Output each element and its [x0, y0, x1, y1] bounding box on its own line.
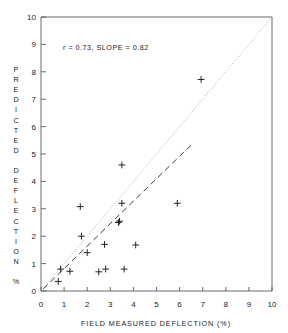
- chart-canvas: 012345678910 012345678910 r = 0.73, SLOP…: [0, 0, 288, 333]
- y-axis-title-char: T: [14, 126, 19, 135]
- data-point: [101, 241, 108, 248]
- y-tick-label-1: 1: [32, 260, 37, 269]
- y-axis-title-char: I: [15, 237, 17, 246]
- x-tick-label-5: 5: [154, 300, 159, 309]
- data-point-markers: [55, 76, 205, 285]
- data-point: [116, 218, 123, 225]
- x-tick-label-10: 10: [268, 300, 277, 309]
- data-point: [174, 200, 181, 207]
- x-tick-label-0: 0: [39, 300, 44, 309]
- plot-frame: [41, 17, 272, 291]
- y-tick-label-4: 4: [32, 177, 37, 186]
- y-axis-title-char: T: [14, 227, 19, 236]
- y-tick-label-7: 7: [32, 95, 37, 104]
- y-tick-label-10: 10: [27, 13, 36, 22]
- x-tick-label-8: 8: [224, 300, 229, 309]
- y-axis-title-char: %: [13, 277, 20, 286]
- y-axis-title: PREDICTEDDEFLECTION%: [13, 65, 20, 286]
- y-tick-label-0: 0: [32, 287, 37, 296]
- y-tick-label-9: 9: [32, 40, 37, 49]
- y-axis-title-char: I: [15, 105, 17, 114]
- data-point: [198, 76, 205, 83]
- data-point: [77, 203, 84, 210]
- y-axis-title-char: P: [14, 65, 19, 74]
- y-axis-title-char: D: [13, 166, 18, 175]
- one-to-one-reference-line: [41, 17, 272, 291]
- x-axis-tick-labels: 012345678910: [39, 300, 277, 309]
- y-tick-label-3: 3: [32, 205, 37, 214]
- data-point: [95, 268, 102, 275]
- x-tick-label-1: 1: [62, 300, 67, 309]
- y-axis-title-char: R: [13, 75, 18, 84]
- y-tick-label-6: 6: [32, 123, 37, 132]
- x-axis-ticks: [41, 287, 272, 291]
- y-tick-label-8: 8: [32, 68, 37, 77]
- y-tick-label-5: 5: [32, 150, 37, 159]
- y-axis-title-char: D: [13, 146, 18, 155]
- y-axis-title-char: C: [13, 217, 18, 226]
- data-point: [118, 200, 125, 207]
- scatter-plot-figure: 012345678910 012345678910 r = 0.73, SLOP…: [0, 0, 288, 333]
- y-axis-title-char: D: [13, 95, 18, 104]
- y-axis-title-char: L: [14, 196, 18, 205]
- data-point: [78, 233, 85, 240]
- data-point: [57, 266, 64, 273]
- x-tick-label-2: 2: [85, 300, 90, 309]
- y-axis-title-char: E: [14, 176, 19, 185]
- data-point: [84, 249, 91, 256]
- y-axis-title-char: C: [13, 116, 18, 125]
- data-point: [115, 219, 122, 226]
- x-tick-label-3: 3: [108, 300, 113, 309]
- regression-fit-line: [43, 143, 193, 289]
- y-axis-title-char: E: [14, 206, 19, 215]
- y-axis-ticks: [41, 17, 46, 291]
- y-axis-title-char: E: [14, 136, 19, 145]
- data-point: [121, 266, 128, 273]
- data-point: [66, 268, 73, 275]
- y-axis-title-char: E: [14, 85, 19, 94]
- x-tick-label-9: 9: [247, 300, 252, 309]
- x-tick-label-4: 4: [131, 300, 136, 309]
- data-point: [118, 162, 125, 169]
- y-tick-label-2: 2: [32, 232, 37, 241]
- correlation-annotation: r = 0.73, SLOPE = 0.82: [63, 43, 149, 52]
- data-point: [102, 266, 109, 273]
- y-axis-title-char: F: [14, 186, 19, 195]
- data-point: [132, 242, 139, 249]
- x-tick-label-7: 7: [200, 300, 205, 309]
- x-axis-title: FIELD MEASURED DEFLECTION (%): [81, 319, 231, 328]
- y-axis-title-char: N: [13, 257, 18, 266]
- y-axis-tick-labels: 012345678910: [27, 13, 36, 296]
- y-axis-title-char: O: [13, 247, 19, 256]
- x-tick-label-6: 6: [177, 300, 182, 309]
- data-point: [55, 278, 62, 285]
